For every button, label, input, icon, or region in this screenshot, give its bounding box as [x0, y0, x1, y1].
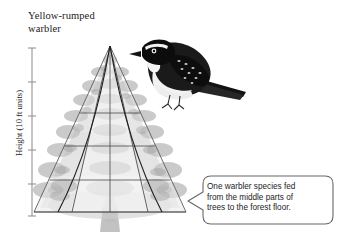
callout-line-1: One warbler species fed — [207, 182, 323, 193]
warbler-feeding-zone-figure: Yellow-rumped warbler Height (10 ft unit… — [0, 0, 339, 242]
callout-text: One warbler species fed from the middle … — [207, 182, 323, 214]
figure-title: Yellow-rumped warbler — [28, 10, 148, 35]
figure-title-line-2: warbler — [28, 23, 148, 36]
figure-title-line-1: Yellow-rumped — [28, 10, 148, 23]
y-axis-label: Height (10 ft units) — [14, 68, 24, 178]
callout-line-3: trees to the forest floor. — [207, 203, 323, 214]
callout-line-2: from the middle parts of — [207, 193, 323, 204]
